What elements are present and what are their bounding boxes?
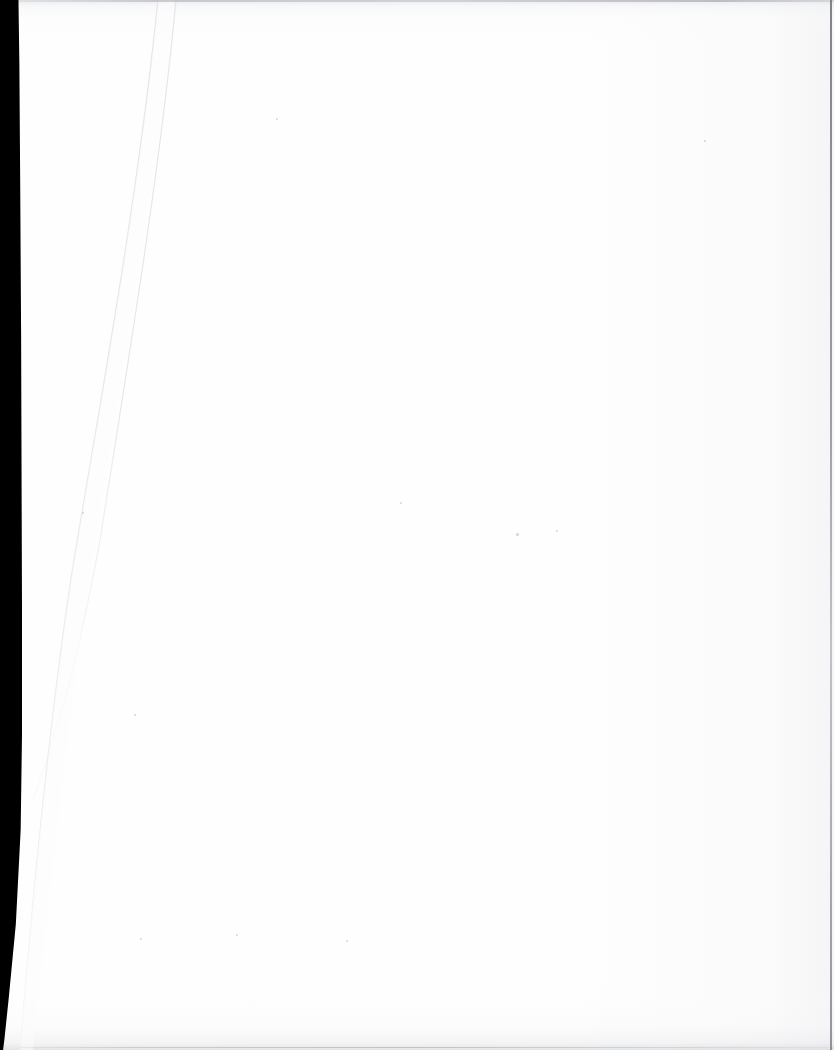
scanned-page xyxy=(0,0,834,1050)
page-text-body xyxy=(190,90,780,970)
scan-speck xyxy=(82,512,84,514)
bottom-edge-rule xyxy=(20,1047,834,1048)
right-edge-rule xyxy=(830,0,832,1050)
top-edge-rule xyxy=(14,0,834,2)
scan-speck xyxy=(134,714,136,716)
scan-speck xyxy=(140,938,142,940)
